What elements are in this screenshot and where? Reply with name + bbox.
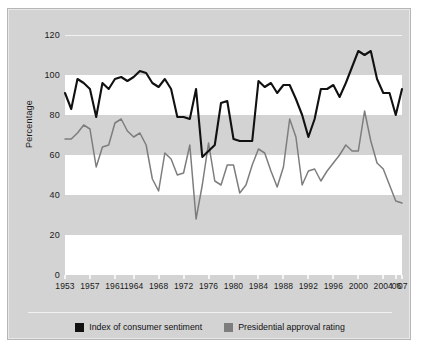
x-tick-label-7: 1980 [224,281,243,291]
y-tick-label-0: 0 [55,270,60,280]
x-tick-2006 [395,275,397,279]
x-tick-1964 [133,275,135,279]
x-tick-1996 [332,275,334,279]
y-tick-label-40: 40 [50,190,60,200]
x-tick-label-3: 1964 [124,281,143,291]
y-tick-label-80: 80 [50,110,60,120]
x-tick-1961 [114,275,116,279]
x-tick-label-15: '07 [396,281,407,291]
x-tick-1968 [158,275,160,279]
series-line-consumer-sentiment [65,51,402,157]
x-tick-label-6: 1976 [199,281,218,291]
y-axis-ticks: 020406080100120 [32,35,60,275]
x-tick-1953 [64,275,66,279]
legend-divider [28,312,392,313]
series-lines [65,35,402,275]
legend-item-presidential-approval: Presidential approval rating [224,323,345,332]
legend-swatch-black [75,323,84,332]
x-tick-1992 [307,275,309,279]
x-tick-1980 [233,275,235,279]
legend-item-consumer-sentiment: Index of consumer sentiment [75,323,202,332]
x-tick-label-8: 1984 [249,281,268,291]
x-tick-2007 [401,275,403,279]
plot-area [65,35,402,275]
x-axis-labels: 1953195719611964196819721976198019841988… [58,281,410,295]
x-tick-label-10: 1992 [299,281,318,291]
x-tick-label-11: 1996 [324,281,343,291]
x-tick-label-1: 1957 [80,281,99,291]
y-tick-label-120: 120 [44,30,60,40]
x-axis-ticks [65,275,402,280]
x-tick-1957 [89,275,91,279]
legend-label-consumer-sentiment: Index of consumer sentiment [89,323,202,332]
y-tick-label-20: 20 [50,230,60,240]
x-tick-1984 [257,275,259,279]
chart-panel: Percentage 020406080100120 1953195719611… [7,8,411,340]
series-line-presidential-approval [65,111,402,219]
legend-swatch-gray [224,323,233,332]
chart-legend: Index of consumer sentiment Presidential… [8,323,412,332]
chart-figure: Percentage 020406080100120 1953195719611… [0,0,425,350]
x-tick-label-0: 1953 [55,281,74,291]
x-tick-label-12: 2000 [349,281,368,291]
x-tick-2000 [357,275,359,279]
x-tick-label-4: 1968 [149,281,168,291]
x-tick-2004 [382,275,384,279]
x-tick-1976 [208,275,210,279]
x-tick-label-5: 1972 [174,281,193,291]
legend-label-presidential-approval: Presidential approval rating [238,323,345,332]
x-tick-label-9: 1988 [274,281,293,291]
x-tick-1988 [282,275,284,279]
y-tick-label-100: 100 [44,70,60,80]
x-tick-label-2: 1961 [105,281,124,291]
y-tick-label-60: 60 [50,150,60,160]
x-tick-1972 [183,275,185,279]
